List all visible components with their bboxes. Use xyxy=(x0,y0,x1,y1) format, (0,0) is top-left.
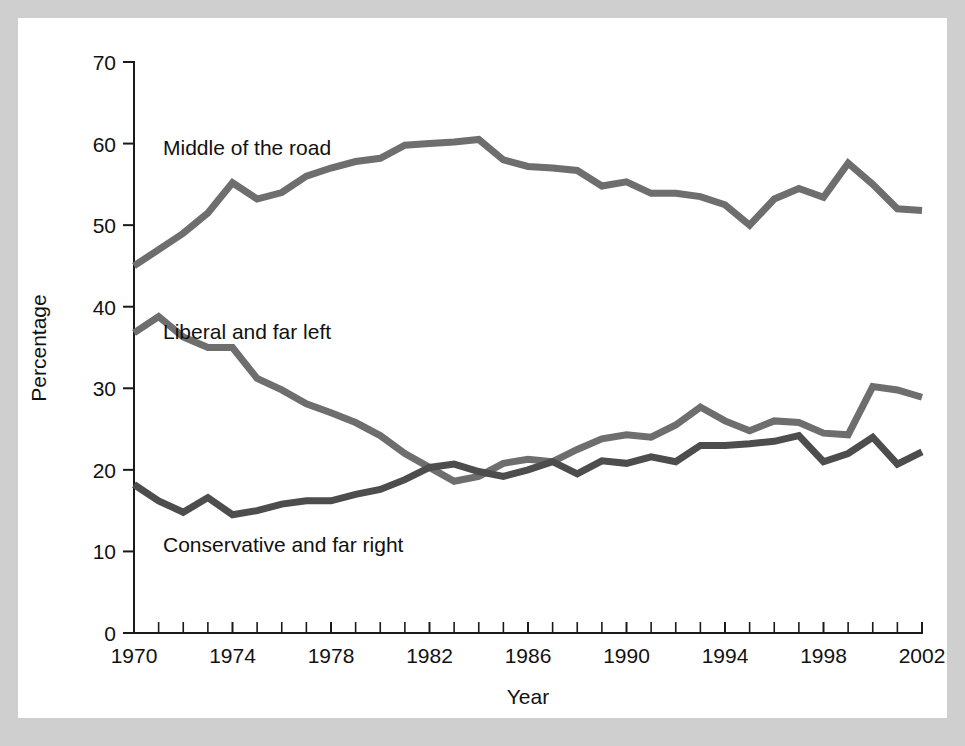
y-tick-label: 40 xyxy=(93,296,116,319)
x-axis-title: Year xyxy=(507,685,549,708)
series-label-middle: Middle of the road xyxy=(163,136,331,159)
x-tick-label: 1978 xyxy=(308,644,355,667)
x-tick-label: 1970 xyxy=(111,644,158,667)
y-tick-label: 20 xyxy=(93,459,116,482)
x-tick-label: 1994 xyxy=(702,644,749,667)
y-axis-title: Percentage xyxy=(27,294,50,401)
y-axis-ticks: 010203040506070 xyxy=(93,51,134,645)
x-tick-label: 1982 xyxy=(406,644,453,667)
y-tick-label: 70 xyxy=(93,51,116,74)
y-tick-label: 60 xyxy=(93,133,116,156)
y-tick-label: 10 xyxy=(93,540,116,563)
y-tick-label: 0 xyxy=(104,622,116,645)
x-tick-label: 1990 xyxy=(603,644,650,667)
figure-frame: 010203040506070 197019741978198219861990… xyxy=(0,0,965,746)
x-tick-label: 2002 xyxy=(899,644,946,667)
x-tick-label: 1986 xyxy=(505,644,552,667)
series-line-conservative-and-far-right xyxy=(134,436,922,515)
line-chart: 010203040506070 197019741978198219861990… xyxy=(18,18,947,718)
x-tick-label: 1974 xyxy=(209,644,256,667)
chart-panel: 010203040506070 197019741978198219861990… xyxy=(18,18,947,718)
series-label-liberal: Liberal and far left xyxy=(163,320,331,343)
x-axis-ticks: 197019741978198219861990199419982002 xyxy=(111,622,946,667)
y-tick-label: 50 xyxy=(93,214,116,237)
x-tick-label: 1998 xyxy=(800,644,847,667)
y-tick-label: 30 xyxy=(93,377,116,400)
series-label-conservative: Conservative and far right xyxy=(163,533,404,556)
